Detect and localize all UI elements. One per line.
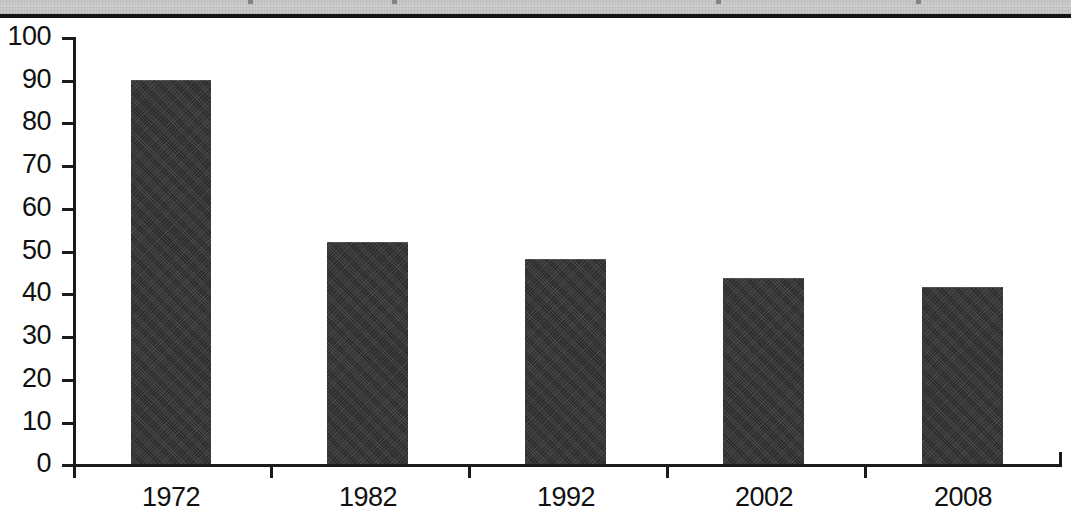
x-tick-label-2002: 2002 bbox=[664, 484, 864, 511]
y-tick-mark bbox=[62, 336, 75, 339]
y-tick-label: 70 bbox=[0, 151, 51, 178]
y-tick-mark bbox=[62, 122, 75, 125]
y-tick-label: 0 bbox=[0, 450, 51, 477]
x-tick-mark bbox=[468, 464, 471, 478]
y-tick-label: 40 bbox=[0, 279, 51, 306]
x-tick-mark bbox=[864, 464, 867, 478]
y-tick-label: 20 bbox=[0, 365, 51, 392]
y-tick-label: 60 bbox=[0, 194, 51, 221]
y-tick-mark bbox=[62, 208, 75, 211]
y-tick-label: 50 bbox=[0, 237, 51, 264]
y-tick-mark bbox=[62, 379, 75, 382]
x-tick-mark bbox=[73, 464, 76, 478]
x-tick-label-1982: 1982 bbox=[268, 484, 468, 511]
y-tick-mark bbox=[62, 80, 75, 83]
y-tick-label: 30 bbox=[0, 322, 51, 349]
y-tick-mark bbox=[62, 293, 75, 296]
y-tick-mark bbox=[62, 165, 75, 168]
bar-2008 bbox=[922, 287, 1003, 464]
x-tick-mark bbox=[270, 464, 273, 478]
cut-off-text-descender bbox=[392, 0, 397, 4]
x-axis-end-tick bbox=[1059, 452, 1062, 467]
bar-1972 bbox=[131, 80, 211, 464]
bar-2002 bbox=[723, 278, 804, 464]
y-tick-mark bbox=[62, 251, 75, 254]
y-tick-label: 90 bbox=[0, 66, 51, 93]
x-tick-label-1992: 1992 bbox=[466, 484, 666, 511]
bar-1992 bbox=[525, 259, 606, 464]
bar-1982 bbox=[327, 242, 408, 464]
cut-off-text-descender bbox=[248, 0, 253, 4]
scanned-page-band bbox=[0, 0, 1071, 14]
y-tick-mark bbox=[62, 37, 75, 40]
y-tick-label: 100 bbox=[0, 23, 51, 50]
x-tick-label-2008: 2008 bbox=[863, 484, 1063, 511]
bar-chart: 100 90 80 70 60 50 40 30 20 10 0 1972 19… bbox=[0, 18, 1071, 530]
x-tick-label-1972: 1972 bbox=[71, 484, 271, 511]
y-tick-mark bbox=[62, 422, 75, 425]
y-tick-label: 10 bbox=[0, 408, 51, 435]
cut-off-text-descender bbox=[716, 0, 721, 4]
y-tick-label: 80 bbox=[0, 108, 51, 135]
x-axis-line bbox=[62, 464, 1062, 467]
x-tick-mark bbox=[666, 464, 669, 478]
cut-off-text-descender bbox=[916, 0, 921, 4]
